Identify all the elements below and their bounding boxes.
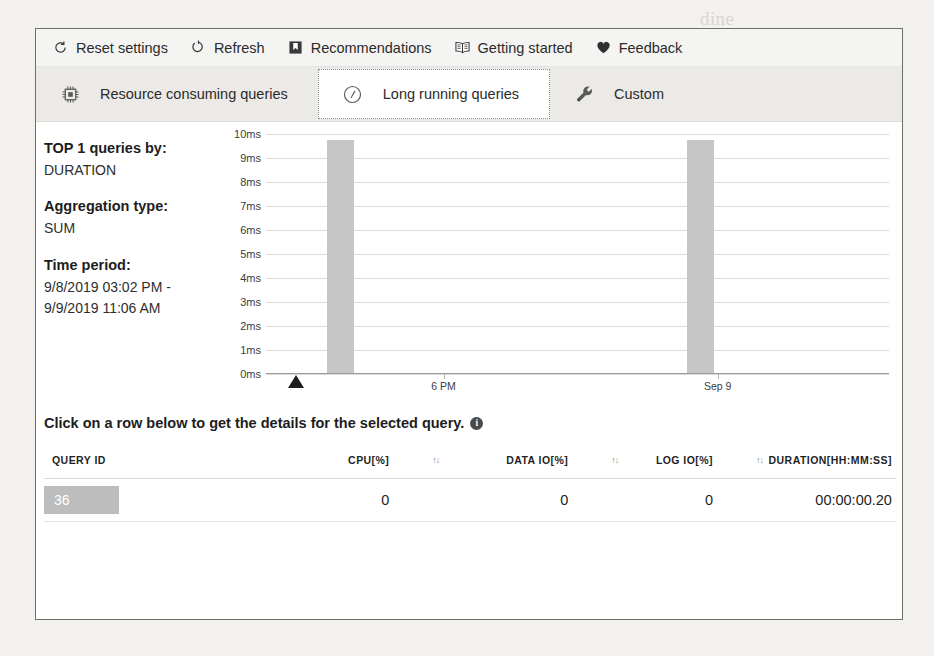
- tab-resource-consuming-queries-label: Resource consuming queries: [100, 86, 288, 102]
- duration-bar-chart: 0ms1ms2ms3ms4ms5ms6ms7ms8ms9ms10ms 6 PMS…: [201, 134, 891, 394]
- aggregation-type-label: Aggregation type:: [44, 196, 219, 217]
- command-bar: Reset settings Refresh Recommendations: [36, 29, 902, 67]
- table-header-label: LOG IO[%]: [656, 454, 713, 466]
- chart-time-marker-icon[interactable]: [288, 375, 304, 388]
- info-icon[interactable]: i: [470, 417, 483, 430]
- refresh-button[interactable]: Refresh: [190, 39, 265, 56]
- ghost-text: dine: [700, 8, 734, 30]
- chart-y-tick-label: 2ms: [240, 320, 261, 332]
- chart-y-tick-label: 5ms: [240, 248, 261, 260]
- chart-x-tick-label: 6 PM: [431, 380, 456, 392]
- chart-gridline: [266, 374, 889, 375]
- tab-custom[interactable]: Custom: [550, 67, 694, 121]
- getting-started-label: Getting started: [478, 40, 573, 56]
- row-click-hint-text: Click on a row below to get the details …: [44, 415, 464, 431]
- chart-x-tick-mark: [444, 374, 445, 379]
- chart-y-tick-label: 4ms: [240, 272, 261, 284]
- tab-long-running-queries[interactable]: Long running queries: [318, 69, 550, 119]
- reset-icon: [52, 39, 69, 56]
- time-period-value-start: 9/8/2019 03:02 PM -: [44, 277, 219, 297]
- table-cell-duration: 00:00:00.20: [717, 492, 896, 508]
- reset-settings-label: Reset settings: [76, 40, 168, 56]
- chart-gridline: [266, 350, 889, 351]
- tab-long-running-queries-label: Long running queries: [383, 86, 519, 102]
- time-period-label: Time period:: [44, 255, 219, 276]
- chart-y-tick-label: 8ms: [240, 176, 261, 188]
- recommendations-label: Recommendations: [311, 40, 432, 56]
- query-performance-insight-screenshot: Reset settings Refresh Recommendations: [35, 28, 903, 620]
- table-header-label: CPU[%]: [348, 454, 389, 466]
- recommendations-button[interactable]: Recommendations: [287, 39, 432, 56]
- table-cell-cpu: 0: [248, 492, 393, 508]
- chart-gridline: [266, 134, 889, 135]
- table-body: 3600000:00:00.20: [44, 479, 896, 522]
- chart-x-tick-mark: [718, 374, 719, 379]
- table-cell-data_io: 0: [393, 492, 572, 508]
- tab-custom-label: Custom: [614, 86, 664, 102]
- top-queries-label: TOP 1 queries by:: [44, 138, 219, 159]
- feedback-label: Feedback: [619, 40, 683, 56]
- table-header-data_io[interactable]: DATA IO[%]↑↓: [393, 454, 572, 466]
- tab-strip: Resource consuming queries Long running …: [36, 67, 902, 122]
- query-settings-panel: TOP 1 queries by: DURATION Aggregation t…: [44, 138, 219, 318]
- table-header-duration[interactable]: DURATION[HH:MM:SS]: [717, 454, 896, 466]
- table-header-cpu[interactable]: CPU[%]↑↓: [248, 454, 393, 466]
- chart-gridline: [266, 182, 889, 183]
- chart-y-tick-label: 6ms: [240, 224, 261, 236]
- clock-icon: [341, 82, 365, 106]
- time-period-value-end: 9/9/2019 11:06 AM: [44, 298, 219, 318]
- chart-gridline: [266, 158, 889, 159]
- table-header-query_id[interactable]: QUERY ID: [44, 454, 248, 466]
- chart-y-tick-label: 9ms: [240, 152, 261, 164]
- chart-gridline: [266, 302, 889, 303]
- book-icon: [454, 39, 471, 56]
- table-header-row: QUERY IDCPU[%]↑↓DATA IO[%]↑↓LOG IO[%]↑↓D…: [44, 454, 896, 479]
- chart-bar[interactable]: [687, 140, 714, 373]
- getting-started-button[interactable]: Getting started: [454, 39, 573, 56]
- chart-gridline: [266, 254, 889, 255]
- table-header-log_io[interactable]: LOG IO[%]↑↓: [572, 454, 717, 466]
- reset-settings-button[interactable]: Reset settings: [52, 39, 168, 56]
- table-header-label: QUERY ID: [52, 454, 106, 466]
- chart-y-tick-label: 7ms: [240, 200, 261, 212]
- refresh-label: Refresh: [214, 40, 265, 56]
- table-row[interactable]: 3600000:00:00.20: [44, 479, 896, 522]
- heart-icon: [595, 39, 612, 56]
- chart-gridline: [266, 326, 889, 327]
- table-header-label: DATA IO[%]: [506, 454, 568, 466]
- chart-plot-area[interactable]: [266, 134, 889, 374]
- queries-table: QUERY IDCPU[%]↑↓DATA IO[%]↑↓LOG IO[%]↑↓D…: [44, 454, 896, 522]
- refresh-icon: [190, 39, 207, 56]
- chart-y-tick-label: 1ms: [240, 344, 261, 356]
- table-cell-query_id: 36: [44, 486, 248, 514]
- chart-y-tick-label: 10ms: [234, 128, 261, 140]
- chart-x-tick-label: Sep 9: [704, 380, 731, 392]
- table-cell-log_io: 0: [572, 492, 717, 508]
- content-area: TOP 1 queries by: DURATION Aggregation t…: [36, 122, 902, 620]
- cpu-chip-icon: [58, 82, 82, 106]
- table-header-label: DURATION[HH:MM:SS]: [769, 454, 892, 466]
- tab-resource-consuming-queries[interactable]: Resource consuming queries: [36, 67, 318, 121]
- top-queries-value: DURATION: [44, 160, 219, 180]
- aggregation-type-value: SUM: [44, 218, 219, 238]
- bookmark-icon: [287, 39, 304, 56]
- wrench-icon: [572, 82, 596, 106]
- chart-gridline: [266, 278, 889, 279]
- feedback-button[interactable]: Feedback: [595, 39, 683, 56]
- row-click-hint: Click on a row below to get the details …: [44, 415, 483, 431]
- chart-bar[interactable]: [327, 140, 354, 373]
- chart-gridline: [266, 230, 889, 231]
- query-id-badge[interactable]: 36: [44, 486, 119, 514]
- chart-y-axis: 0ms1ms2ms3ms4ms5ms6ms7ms8ms9ms10ms: [201, 134, 261, 374]
- chart-y-tick-label: 3ms: [240, 296, 261, 308]
- chart-gridline: [266, 206, 889, 207]
- chart-y-tick-label: 0ms: [240, 368, 261, 380]
